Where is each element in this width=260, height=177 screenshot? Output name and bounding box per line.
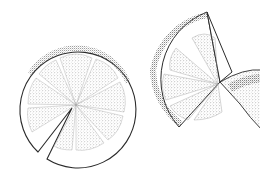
citrus-illustration [0, 0, 260, 177]
partial-citrus-slice [150, 12, 232, 127]
round-citrus-slice [20, 45, 136, 168]
citrus-wedge-piece [220, 70, 260, 130]
